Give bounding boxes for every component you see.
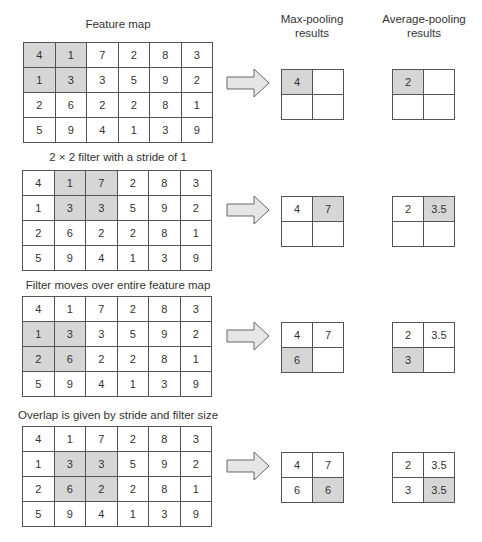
max-pool-grid-row: 66	[282, 478, 344, 503]
max-pooling-title-line2: results	[262, 26, 362, 40]
feature-cell: 2	[117, 477, 149, 502]
feature-map-row: 262281	[24, 93, 213, 118]
feature-cell-highlighted: 3	[54, 196, 86, 221]
right-arrow-icon	[226, 321, 270, 351]
feature-cell: 8	[150, 93, 182, 118]
feature-cell: 9	[149, 196, 181, 221]
feature-cell: 9	[55, 118, 87, 143]
feature-cell-highlighted: 3	[55, 68, 87, 93]
result-cell: 2	[393, 323, 424, 348]
feature-cell: 4	[86, 502, 118, 527]
result-cell	[424, 70, 455, 95]
feature-cell: 5	[117, 322, 149, 347]
feature-map-grid: 417283133592262281594139	[23, 42, 213, 143]
feature-cell: 2	[117, 221, 149, 246]
feature-cell: 2	[117, 427, 149, 452]
feature-cell: 9	[54, 502, 86, 527]
feature-cell: 9	[149, 322, 181, 347]
feature-cell: 1	[180, 347, 212, 372]
feature-map-row: 594139	[23, 372, 212, 397]
feature-cell-highlighted: 3	[54, 452, 86, 477]
right-arrow-icon	[226, 451, 270, 481]
result-cell	[424, 222, 455, 247]
feature-cell: 9	[149, 452, 181, 477]
feature-cell: 9	[150, 68, 182, 93]
max-pool-grid: 4	[281, 69, 344, 120]
feature-cell: 2	[87, 93, 119, 118]
feature-cell: 9	[54, 246, 86, 271]
feature-cell: 4	[23, 171, 55, 196]
feature-cell-highlighted: 2	[86, 477, 118, 502]
feature-cell: 8	[149, 221, 181, 246]
max-pool-grid-row: 6	[282, 348, 344, 373]
result-cell-highlighted: 6	[313, 478, 344, 503]
result-cell-highlighted: 2	[393, 70, 424, 95]
avg-pooling-title: Average-pooling results	[372, 12, 476, 40]
feature-cell: 5	[24, 118, 56, 143]
result-cell-highlighted: 4	[282, 70, 313, 95]
feature-cell: 1	[181, 93, 213, 118]
feature-cell: 4	[87, 118, 119, 143]
feature-cell: 3	[87, 68, 119, 93]
feature-cell-highlighted: 4	[24, 43, 56, 68]
feature-map-row: 133592	[23, 452, 212, 477]
feature-map-row: 594139	[24, 118, 213, 143]
feature-cell: 1	[118, 118, 150, 143]
feature-cell: 4	[23, 297, 55, 322]
avg-pooling-title-line2: results	[372, 26, 476, 40]
result-cell: 3.5	[424, 453, 455, 478]
feature-cell: 2	[180, 322, 212, 347]
result-cell: 7	[313, 323, 344, 348]
feature-cell: 2	[180, 196, 212, 221]
right-arrow-icon	[226, 68, 270, 98]
feature-cell-highlighted: 1	[55, 43, 87, 68]
feature-cell: 4	[86, 246, 118, 271]
result-cell-highlighted: 3.5	[424, 478, 455, 503]
feature-map-row: 133592	[24, 68, 213, 93]
feature-cell: 5	[118, 68, 150, 93]
feature-cell: 7	[87, 43, 119, 68]
avg-pool-grid-row: 23.5	[393, 323, 455, 348]
max-pool-grid: 47	[281, 196, 344, 247]
feature-cell: 3	[180, 171, 212, 196]
max-pooling-title-line1: Max-pooling	[262, 12, 362, 26]
result-cell: 4	[282, 197, 313, 222]
feature-cell: 1	[180, 221, 212, 246]
feature-cell: 9	[181, 118, 213, 143]
feature-cell: 1	[23, 196, 55, 221]
feature-cell: 1	[117, 246, 149, 271]
feature-cell-highlighted: 1	[23, 322, 55, 347]
step-caption: Overlap is given by stride and filter si…	[10, 409, 226, 421]
feature-cell: 3	[181, 43, 213, 68]
feature-cell-highlighted: 6	[54, 347, 86, 372]
feature-cell: 1	[54, 297, 86, 322]
feature-cell: 3	[86, 322, 118, 347]
feature-cell-highlighted: 1	[24, 68, 56, 93]
feature-map-grid: 417283133592262281594139	[22, 296, 212, 397]
max-pooling-title: Max-pooling results	[262, 12, 362, 40]
feature-map-title: Feature map	[23, 18, 213, 30]
result-cell	[313, 70, 344, 95]
feature-cell: 7	[86, 427, 118, 452]
feature-cell-highlighted: 3	[86, 452, 118, 477]
max-pool-grid: 4766	[281, 452, 344, 503]
feature-cell: 3	[150, 118, 182, 143]
feature-cell: 2	[86, 221, 118, 246]
feature-map-row: 417283	[23, 171, 212, 196]
feature-cell: 2	[23, 477, 55, 502]
feature-cell: 6	[55, 93, 87, 118]
feature-map-row: 417283	[23, 427, 212, 452]
feature-cell: 8	[149, 477, 181, 502]
result-cell	[313, 95, 344, 120]
feature-cell: 5	[117, 452, 149, 477]
feature-cell: 1	[54, 427, 86, 452]
feature-cell: 2	[117, 171, 149, 196]
result-cell	[393, 222, 424, 247]
feature-map-row: 262281	[23, 347, 212, 372]
feature-map-row: 594139	[23, 246, 212, 271]
avg-pool-grid-row: 23.5	[393, 453, 455, 478]
result-cell	[424, 95, 455, 120]
result-cell: 2	[393, 197, 424, 222]
feature-map-row: 262281	[23, 477, 212, 502]
feature-cell: 1	[117, 372, 149, 397]
